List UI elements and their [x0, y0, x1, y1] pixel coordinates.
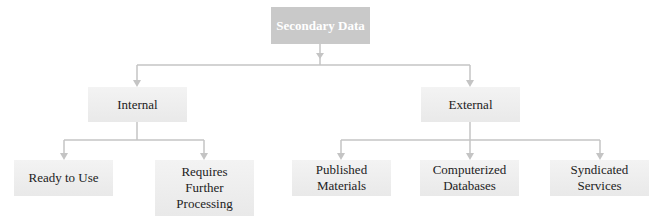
- node-published-materials: Published Materials: [292, 160, 391, 196]
- node-label: External: [448, 97, 492, 113]
- node-computerized-databases: Computerized Databases: [420, 160, 519, 196]
- node-label: Secondary Data: [276, 18, 364, 34]
- node-label: Syndicated Services: [564, 162, 635, 194]
- node-internal: Internal: [88, 87, 187, 122]
- node-label: Published Materials: [310, 162, 373, 194]
- node-label: Computerized Databases: [424, 162, 515, 194]
- node-external: External: [421, 87, 520, 122]
- node-secondary-data: Secondary Data: [271, 7, 370, 44]
- node-label: Ready to Use: [28, 170, 98, 186]
- node-requires-further-processing: Requires Further Processing: [155, 160, 254, 216]
- node-syndicated-services: Syndicated Services: [550, 160, 649, 196]
- node-ready-to-use: Ready to Use: [14, 160, 113, 196]
- node-label: Internal: [117, 97, 157, 113]
- node-label: Requires Further Processing: [169, 164, 240, 212]
